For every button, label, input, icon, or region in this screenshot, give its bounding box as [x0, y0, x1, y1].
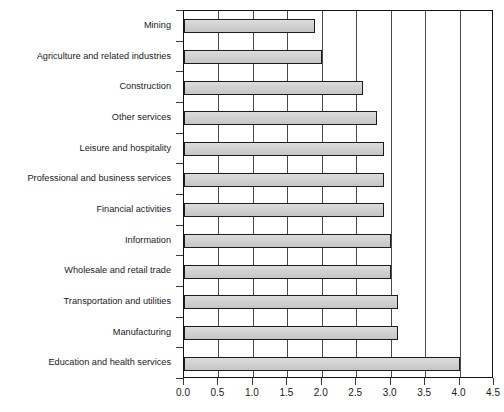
x-axis-tick: [493, 378, 494, 385]
y-axis-tick: [176, 317, 183, 318]
x-axis-tick-label: 0.0: [176, 387, 190, 398]
y-axis-tick: [176, 347, 183, 348]
bar-row: [184, 134, 492, 165]
x-axis-tick: [390, 378, 391, 385]
bar: [184, 19, 315, 33]
x-axis-tick: [459, 378, 460, 385]
y-axis-label: Information: [125, 235, 171, 246]
x-axis-tick: [355, 378, 356, 385]
bar: [184, 173, 384, 187]
bar: [184, 111, 377, 125]
bar-row: [184, 164, 492, 195]
bar-row: [184, 103, 492, 134]
bar: [184, 234, 391, 248]
x-axis-tick-label: 4.0: [452, 387, 466, 398]
y-axis-label: Professional and business services: [27, 173, 171, 184]
y-axis-label: Transportation and utilities: [64, 296, 171, 307]
y-axis-tick: [176, 10, 183, 11]
bar-chart: MiningAgriculture and related industries…: [0, 0, 504, 412]
bars-layer: [184, 11, 492, 377]
bar-row: [184, 42, 492, 73]
y-axis-label: Construction: [119, 81, 171, 92]
bar-row: [184, 72, 492, 103]
x-axis-tick: [424, 378, 425, 385]
x-axis-tick-label: 2.5: [348, 387, 362, 398]
bar: [184, 295, 398, 309]
bar-row: [184, 195, 492, 226]
bar-row: [184, 348, 492, 379]
bar: [184, 50, 322, 64]
x-axis-tick-label: 2.0: [314, 387, 328, 398]
x-axis-tick: [286, 378, 287, 385]
bar-row: [184, 256, 492, 287]
bar-row: [184, 226, 492, 257]
y-axis-label: Wholesale and retail trade: [64, 265, 171, 276]
bar: [184, 326, 398, 340]
y-axis-label: Mining: [144, 20, 171, 31]
bar-row: [184, 318, 492, 349]
x-axis-tick: [217, 378, 218, 385]
x-axis-tick: [321, 378, 322, 385]
x-axis-tick-label: 0.5: [210, 387, 224, 398]
x-axis-tick-label: 1.0: [245, 387, 259, 398]
y-axis-tick: [176, 71, 183, 72]
y-axis-tick: [176, 378, 183, 379]
bar: [184, 203, 384, 217]
y-axis-tick: [176, 286, 183, 287]
x-axis: 0.00.51.01.52.02.53.03.54.04.5: [183, 378, 493, 410]
y-axis-tick: [176, 102, 183, 103]
bar: [184, 265, 391, 279]
y-axis-tick: [176, 41, 183, 42]
x-axis-tick-label: 3.0: [383, 387, 397, 398]
bar: [184, 357, 460, 371]
y-axis-label: Education and health services: [48, 357, 171, 368]
y-axis-label: Manufacturing: [113, 327, 171, 338]
y-axis-tick: [176, 163, 183, 164]
bar: [184, 142, 384, 156]
y-axis-label: Leisure and hospitality: [80, 143, 171, 154]
y-axis-label: Other services: [112, 112, 171, 123]
y-axis-label: Agriculture and related industries: [37, 51, 171, 62]
y-axis-tick: [176, 255, 183, 256]
y-axis-tick: [176, 194, 183, 195]
y-axis-tick: [176, 225, 183, 226]
y-axis-tick: [176, 133, 183, 134]
plot-area: [183, 10, 493, 378]
x-axis-tick-label: 3.5: [417, 387, 431, 398]
bar: [184, 81, 363, 95]
bar-row: [184, 287, 492, 318]
y-axis-label: Financial activities: [96, 204, 171, 215]
x-axis-tick: [183, 378, 184, 385]
y-axis-category-labels: MiningAgriculture and related industries…: [0, 10, 177, 378]
bar-row: [184, 11, 492, 42]
x-axis-tick-label: 4.5: [486, 387, 500, 398]
x-axis-tick: [252, 378, 253, 385]
x-axis-tick-label: 1.5: [279, 387, 293, 398]
